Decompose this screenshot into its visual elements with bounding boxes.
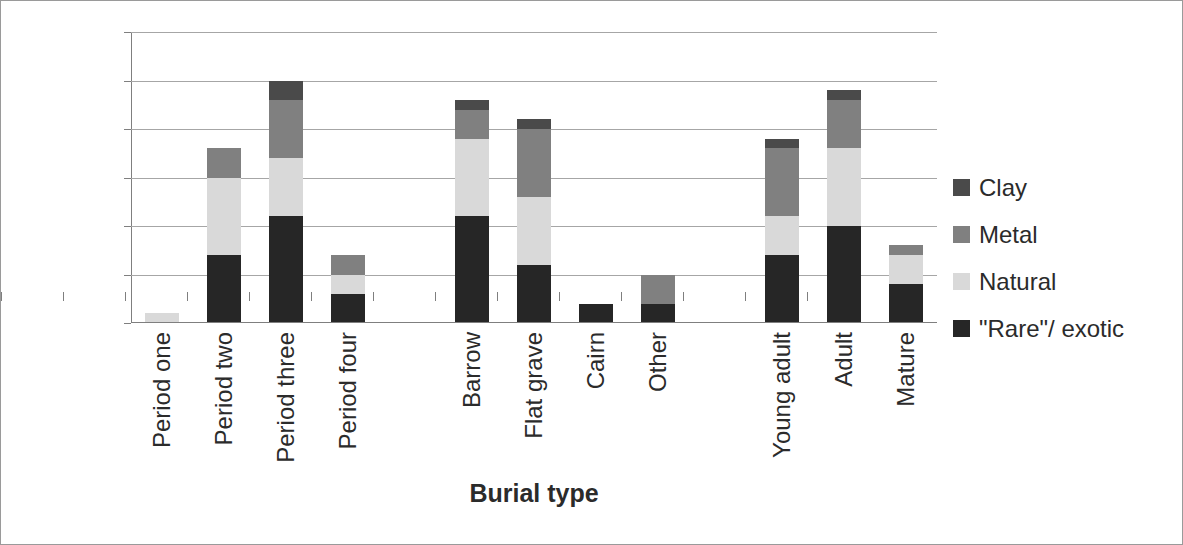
- bar-segment[interactable]: [455, 139, 490, 217]
- bar-series-group: [131, 32, 937, 323]
- legend-item[interactable]: Metal: [953, 211, 1124, 258]
- x-label-slot-empty: [379, 332, 441, 472]
- stacked-bar[interactable]: [269, 81, 304, 323]
- x-label-slot: Other: [627, 332, 689, 472]
- plot-area: 051015202530: [131, 32, 937, 323]
- bar-column: [193, 32, 255, 323]
- x-tick-label: Barrow: [460, 332, 484, 408]
- bar-segment[interactable]: [517, 197, 552, 265]
- bar-segment[interactable]: [765, 148, 800, 216]
- x-tick-label: Period four: [336, 332, 360, 449]
- y-tick-mark: [124, 129, 131, 130]
- bar-segment[interactable]: [765, 255, 800, 323]
- bar-segment[interactable]: [827, 148, 862, 226]
- x-tick-mark: [435, 292, 436, 301]
- stacked-bar[interactable]: [827, 90, 862, 323]
- bar-segment[interactable]: [455, 216, 490, 323]
- legend-item[interactable]: Clay: [953, 164, 1124, 211]
- bar-segment[interactable]: [331, 255, 366, 274]
- x-label-slot: Adult: [813, 332, 875, 472]
- bar-column: [503, 32, 565, 323]
- bar-segment[interactable]: [641, 304, 676, 323]
- x-tick-mark: [311, 292, 312, 301]
- legend-label: Clay: [979, 176, 1027, 200]
- bar-segment[interactable]: [827, 100, 862, 149]
- y-tick-mark: [124, 275, 131, 276]
- x-tick-mark: [497, 292, 498, 301]
- x-label-slot: Period four: [317, 332, 379, 472]
- x-tick-label: Adult: [832, 332, 856, 387]
- bar-column: [813, 32, 875, 323]
- y-tick-mark: [124, 178, 131, 179]
- legend-swatch-icon: [953, 179, 970, 196]
- x-tick-mark: [621, 292, 622, 301]
- x-label-slot: Flat grave: [503, 332, 565, 472]
- x-axis-tickmarks: [1, 292, 807, 301]
- stacked-bar[interactable]: [889, 245, 924, 323]
- bar-segment[interactable]: [455, 100, 490, 110]
- x-tick-mark: [559, 292, 560, 301]
- bar-segment[interactable]: [579, 304, 614, 323]
- y-tick-mark: [124, 32, 131, 33]
- x-tick-mark: [745, 292, 746, 301]
- bar-column: [131, 32, 193, 323]
- bar-column: [875, 32, 937, 323]
- stacked-bar[interactable]: [579, 304, 614, 323]
- bar-segment[interactable]: [207, 148, 242, 177]
- legend-swatch-icon: [953, 273, 970, 290]
- y-tick-mark: [124, 226, 131, 227]
- bar-segment[interactable]: [765, 216, 800, 255]
- legend-swatch-icon: [953, 226, 970, 243]
- bar-segment[interactable]: [269, 100, 304, 158]
- bar-segment[interactable]: [765, 139, 800, 149]
- bar-segment[interactable]: [889, 284, 924, 323]
- x-tick-mark: [683, 292, 684, 301]
- legend-item[interactable]: Natural: [953, 258, 1124, 305]
- chart-legend: ClayMetalNatural"Rare"/ exotic: [953, 164, 1124, 352]
- x-tick-label: Flat grave: [522, 332, 546, 439]
- stacked-bar[interactable]: [455, 100, 490, 323]
- x-axis-tick-labels: Period onePeriod twoPeriod threePeriod f…: [131, 332, 937, 472]
- x-tick-mark: [807, 292, 808, 301]
- bar-segment[interactable]: [455, 110, 490, 139]
- chart-figure: Number of burials 051015202530 Period on…: [0, 0, 1183, 545]
- legend-item[interactable]: "Rare"/ exotic: [953, 305, 1124, 352]
- legend-label: "Rare"/ exotic: [979, 317, 1124, 341]
- x-label-slot: Period three: [255, 332, 317, 472]
- x-label-slot: Period one: [131, 332, 193, 472]
- bar-column: [751, 32, 813, 323]
- legend-swatch-icon: [953, 320, 970, 337]
- bar-segment[interactable]: [827, 226, 862, 323]
- x-tick-label: Cairn: [584, 332, 608, 389]
- x-tick-mark: [63, 292, 64, 301]
- stacked-bar[interactable]: [331, 255, 366, 323]
- x-tick-label: Period two: [212, 332, 236, 445]
- x-axis-line: [131, 322, 937, 323]
- bar-segment[interactable]: [827, 90, 862, 100]
- bar-segment[interactable]: [269, 158, 304, 216]
- x-label-slot: Young adult: [751, 332, 813, 472]
- x-tick-mark: [249, 292, 250, 301]
- x-label-slot: Cairn: [565, 332, 627, 472]
- x-label-slot: Barrow: [441, 332, 503, 472]
- x-tick-label: Period three: [274, 332, 298, 463]
- x-tick-label: Period one: [150, 332, 174, 448]
- bar-column: [627, 32, 689, 323]
- bar-column-spacer: [689, 32, 751, 323]
- bar-segment[interactable]: [517, 129, 552, 197]
- bar-column: [255, 32, 317, 323]
- x-label-slot: Mature: [875, 332, 937, 472]
- x-tick-label: Other: [646, 332, 670, 392]
- bar-segment[interactable]: [331, 275, 366, 294]
- bar-segment[interactable]: [269, 216, 304, 323]
- bar-segment[interactable]: [269, 81, 304, 100]
- x-label-slot-empty: [689, 332, 751, 472]
- x-label-slot: Period two: [193, 332, 255, 472]
- bar-segment[interactable]: [889, 245, 924, 255]
- x-tick-label: Mature: [894, 332, 918, 407]
- bar-segment[interactable]: [889, 255, 924, 284]
- bar-segment[interactable]: [517, 119, 552, 129]
- bar-segment[interactable]: [207, 255, 242, 323]
- bar-segment[interactable]: [207, 178, 242, 256]
- bar-column: [317, 32, 379, 323]
